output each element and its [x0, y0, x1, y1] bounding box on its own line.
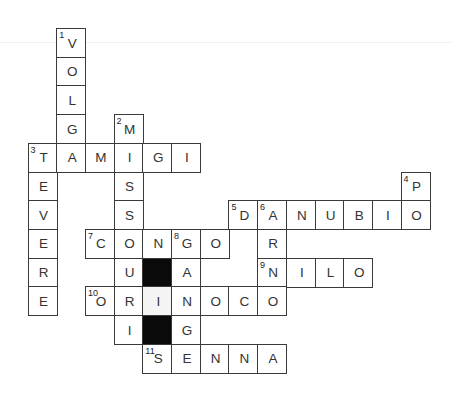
crossword-cell[interactable]: U — [114, 258, 144, 288]
cell-letter: O — [67, 64, 78, 79]
crossword-cell[interactable]: O — [200, 229, 230, 259]
crossword-cell[interactable]: A — [171, 258, 201, 288]
crossword-cell[interactable]: G — [142, 143, 172, 173]
cell-letter: G — [182, 236, 193, 251]
crossword-cell[interactable]: A — [257, 344, 287, 374]
cell-letter: V — [68, 36, 77, 51]
cell-letter: U — [326, 208, 336, 223]
cell-letter: D — [240, 208, 250, 223]
crossword-cell[interactable]: E — [28, 286, 58, 316]
crossword-cell[interactable]: I — [372, 200, 402, 230]
crossword-cell[interactable]: R — [28, 258, 58, 288]
cell-letter: C — [240, 294, 250, 309]
cell-letter: R — [268, 236, 278, 251]
crossword-cell[interactable]: I — [286, 258, 316, 288]
crossword-cell[interactable]: C — [228, 286, 258, 316]
cell-letter: N — [182, 294, 192, 309]
cell-letter: R — [39, 265, 49, 280]
crossword-cell[interactable]: A — [56, 143, 86, 173]
crossword-cell[interactable]: E — [28, 172, 58, 202]
cell-letter: M — [95, 150, 106, 165]
crossword-cell[interactable]: M — [85, 143, 115, 173]
crossword-cell[interactable]: 4P — [401, 172, 431, 202]
cell-letter: V — [39, 208, 48, 223]
cell-letter: O — [411, 208, 422, 223]
crossword-cell[interactable]: 8G — [171, 229, 201, 259]
cell-letter: O — [354, 265, 365, 280]
crossword-cell[interactable]: S — [114, 172, 144, 202]
crossword-cell[interactable]: G — [171, 315, 201, 345]
cell-letter: S — [125, 208, 134, 223]
crossword-cell[interactable]: B — [343, 200, 373, 230]
cell-letter: U — [125, 265, 135, 280]
cell-letter: N — [297, 208, 307, 223]
clue-number: 2 — [117, 117, 122, 126]
cell-letter: A — [269, 208, 278, 223]
crossword-cell[interactable]: 9N — [257, 258, 287, 288]
cell-letter: I — [156, 294, 160, 309]
cell-letter: S — [154, 351, 163, 366]
cell-letter: I — [300, 265, 304, 280]
crossword-cell[interactable]: L — [56, 85, 86, 115]
cell-letter: T — [39, 150, 47, 165]
cell-letter: L — [68, 93, 76, 108]
crossword-black-cell — [142, 315, 172, 345]
cell-letter: I — [128, 323, 132, 338]
clue-number: 7 — [88, 232, 93, 241]
crossword-cell[interactable]: I — [142, 286, 172, 316]
cell-letter: E — [39, 236, 48, 251]
crossword-cell[interactable]: I — [114, 315, 144, 345]
crossword-grid: 1VOLG2M3TAMIGIES4PVS5D6ANUBIOE7CON8GORRU… — [0, 0, 452, 401]
crossword-cell[interactable]: V — [28, 200, 58, 230]
clue-number: 9 — [260, 261, 265, 270]
crossword-cell[interactable]: N — [228, 344, 258, 374]
cell-letter: A — [269, 351, 278, 366]
crossword-cell[interactable]: O — [257, 286, 287, 316]
cell-letter: N — [240, 351, 250, 366]
crossword-cell[interactable]: R — [257, 229, 287, 259]
cell-letter: I — [128, 150, 132, 165]
cell-letter: O — [124, 236, 135, 251]
crossword-cell[interactable]: N — [200, 344, 230, 374]
clue-number: 3 — [31, 146, 36, 155]
crossword-cell[interactable]: O — [56, 57, 86, 87]
clue-number: 6 — [260, 203, 265, 212]
crossword-cell[interactable]: I — [171, 143, 201, 173]
crossword-cell[interactable]: L — [315, 258, 345, 288]
cell-letter: I — [185, 150, 189, 165]
crossword-black-cell — [142, 258, 172, 288]
cell-letter: S — [125, 179, 134, 194]
cell-letter: G — [153, 150, 164, 165]
crossword-cell[interactable]: S — [114, 200, 144, 230]
crossword-cell[interactable]: N — [142, 229, 172, 259]
crossword-cell[interactable]: 1V — [56, 28, 86, 58]
clue-number: 4 — [404, 175, 409, 184]
cell-letter: G — [67, 122, 78, 137]
cell-letter: M — [124, 122, 135, 137]
crossword-cell[interactable]: E — [171, 344, 201, 374]
crossword-cell[interactable]: O — [200, 286, 230, 316]
crossword-cell[interactable]: R — [114, 286, 144, 316]
crossword-cell[interactable]: O — [401, 200, 431, 230]
clue-number: 11 — [145, 347, 154, 356]
crossword-cell[interactable]: 10O — [85, 286, 115, 316]
cell-letter: R — [125, 294, 135, 309]
crossword-cell[interactable]: N — [171, 286, 201, 316]
crossword-cell[interactable]: O — [343, 258, 373, 288]
crossword-cell[interactable]: 6A — [257, 200, 287, 230]
crossword-cell[interactable]: E — [28, 229, 58, 259]
cell-letter: A — [182, 265, 191, 280]
crossword-cell[interactable]: 3T — [28, 143, 58, 173]
crossword-cell[interactable]: I — [114, 143, 144, 173]
crossword-cell[interactable]: O — [114, 229, 144, 259]
crossword-cell[interactable]: G — [56, 114, 86, 144]
crossword-cell[interactable]: U — [315, 200, 345, 230]
crossword-cell[interactable]: 2M — [114, 114, 144, 144]
crossword-cell[interactable]: 11S — [142, 344, 172, 374]
crossword-cell[interactable]: 7C — [85, 229, 115, 259]
crossword-cell[interactable]: N — [286, 200, 316, 230]
cell-letter: E — [39, 294, 48, 309]
cell-letter: E — [182, 351, 191, 366]
crossword-cell[interactable]: 5D — [228, 200, 258, 230]
clue-number: 8 — [174, 232, 179, 241]
